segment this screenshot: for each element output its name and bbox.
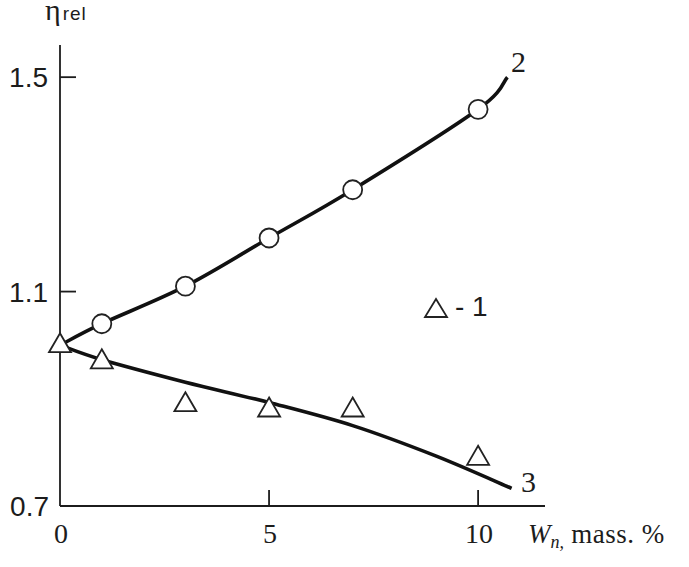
x-tick-label: 5 [263,518,277,549]
y-axis-subscript: rel [63,3,87,24]
y-tick-label: 0.7 [10,491,49,522]
y-tick-label: 1.1 [9,277,48,308]
x-axis-label: Wn, mass. % [528,519,665,552]
triangle-marker-icon [342,398,364,417]
ticks [60,77,478,506]
circle-marker-icon [469,100,488,119]
triangle-marker-icon [467,446,489,465]
legend-label: - 1 [455,291,488,322]
curve-2-label: 2 [511,45,526,78]
circle-marker-icon [176,277,195,296]
fitted-curves [60,77,512,488]
triangle-marker-icon [425,299,447,317]
curve-3-label: 3 [521,465,536,498]
circle-marker-icon [260,228,279,247]
chart: ηrel 0.7 1.1 1.5 0 5 10 Wn, mass. % 2 3 … [0,0,689,567]
circle-marker-icon [92,314,111,333]
data-markers [49,100,489,465]
legend: - 1 [425,291,488,322]
x-tick-label: 10 [465,518,493,549]
curve-3 [60,345,512,488]
circle-marker-icon [343,180,362,199]
x-axis-symbol: W [528,519,553,549]
triangle-marker-icon [174,392,196,411]
x-axis-unit: mass. % [564,519,665,549]
x-axis-subscript: n, [551,532,565,552]
y-tick-label: 1.5 [9,62,48,93]
x-tick-label: 0 [54,518,68,549]
y-axis-label: ηrel [45,0,87,26]
y-axis-symbol: η [45,0,61,26]
